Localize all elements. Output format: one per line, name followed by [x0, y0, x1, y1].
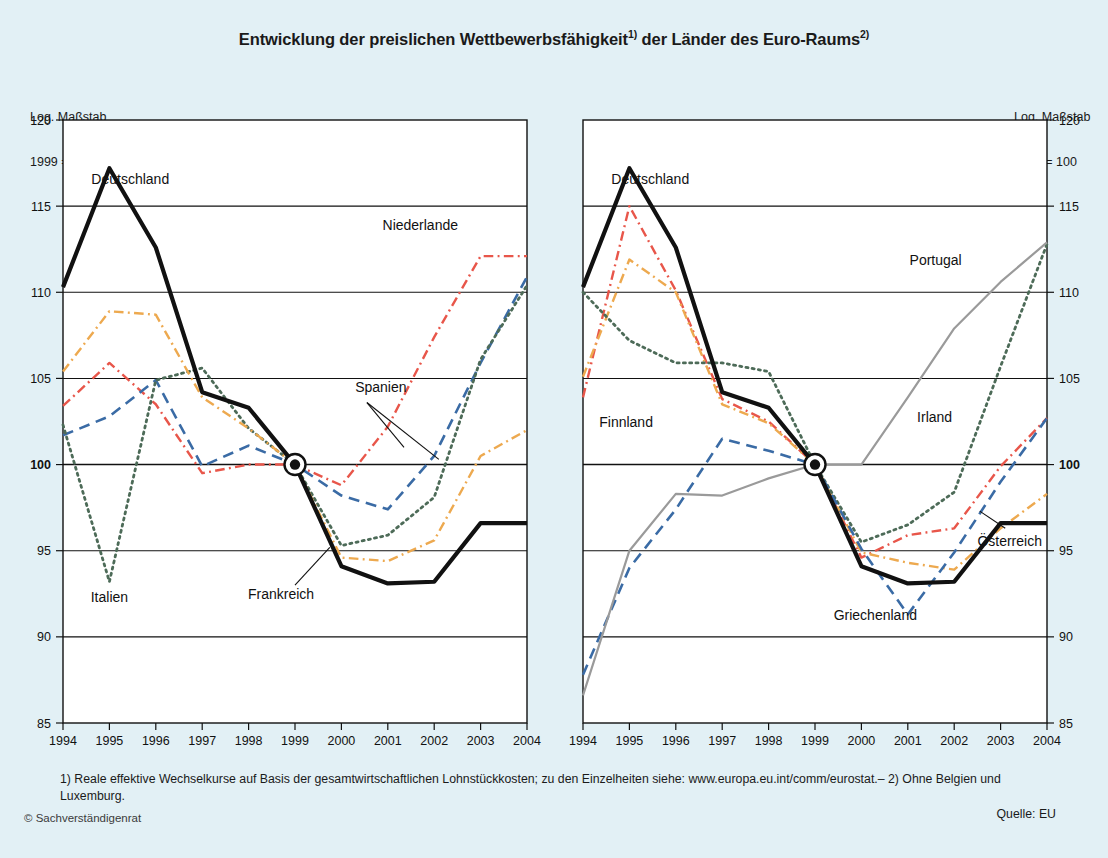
scale-note-left-line2: 1999 = 100 [30, 155, 106, 170]
xtick-label-2000: 2000 [847, 734, 875, 748]
source-label: Quelle: EU [997, 807, 1056, 821]
right-panel-plot-area [583, 120, 1047, 723]
ytick-label-100: 100 [1059, 458, 1080, 472]
xtick-label-2001: 2001 [374, 734, 402, 748]
series-line-italien [63, 285, 527, 581]
xtick-label-1994: 1994 [569, 734, 597, 748]
series-label-finnland: Finnland [599, 414, 653, 430]
title-text: Entwicklung der preislichen Wettbewerbsf… [239, 30, 628, 48]
series-line-finnland [583, 206, 1047, 557]
scale-note-left-line1: Log. Maßstab [30, 110, 106, 125]
left-panel-plot-area [63, 120, 527, 723]
footnote-text: 1) Reale effektive Wechselkurse auf Basi… [60, 771, 1055, 805]
series-label-frankreich: Frankreich [248, 586, 314, 602]
ytick-label-100: 100 [30, 458, 51, 472]
xtick-label-1994: 1994 [49, 734, 77, 748]
xtick-label-2001: 2001 [894, 734, 922, 748]
xtick-label-2004: 2004 [1033, 734, 1061, 748]
marker-1999-dot [810, 459, 820, 469]
marker-1999-dot [290, 459, 300, 469]
series-label-griechenland: Griechenland [834, 607, 917, 623]
label-leader-2 [295, 547, 330, 585]
scale-note-right-line2: 1999 = 100 [1014, 155, 1090, 170]
ytick-label-85: 85 [37, 717, 51, 731]
title-footnote-ref-1: 1) [628, 28, 637, 40]
page-title: Entwicklung der preislichen Wettbewerbsf… [0, 28, 1108, 49]
xtick-label-2002: 2002 [940, 734, 968, 748]
xtick-label-1999: 1999 [281, 734, 309, 748]
series-line-niederlande [63, 256, 527, 485]
xtick-label-2003: 2003 [467, 734, 495, 748]
ytick-label-90: 90 [37, 630, 51, 644]
chart-canvas: 8590951001051101151201994199519961997199… [0, 0, 1108, 858]
series-line-spanien [63, 277, 527, 510]
xtick-label-1999: 1999 [801, 734, 829, 748]
series-label-spanien: Spanien [355, 379, 406, 395]
xtick-label-1996: 1996 [142, 734, 170, 748]
label-leader-0 [980, 511, 1006, 528]
label-leader-1 [367, 403, 439, 460]
scale-note-left: Log. Maßstab 1999 = 100 [30, 80, 106, 200]
ytick-label-110: 110 [1059, 286, 1079, 300]
ytick-label-115: 115 [31, 200, 51, 214]
xtick-label-1996: 1996 [662, 734, 690, 748]
right-panel-frame [583, 120, 1047, 723]
figure-root: Entwicklung der preislichen Wettbewerbsf… [0, 0, 1108, 858]
series-line-österreich [583, 260, 1047, 570]
series-line-irland [583, 244, 1047, 542]
ytick-label-110: 110 [31, 286, 51, 300]
xtick-label-1998: 1998 [755, 734, 783, 748]
xtick-label-2000: 2000 [327, 734, 355, 748]
ytick-label-95: 95 [1059, 544, 1073, 558]
scale-note-right-line1: Log. Maßstab [1014, 110, 1090, 125]
series-line-frankreich [63, 311, 527, 561]
copyright-label: © Sachverständigenrat [24, 812, 141, 824]
series-label-italien: Italien [91, 589, 128, 605]
series-label-österreich: Österreich [977, 532, 1042, 549]
right-panel: 8590951001051101151201994199519961997199… [569, 114, 1080, 749]
ytick-label-95: 95 [37, 544, 51, 558]
xtick-label-1995: 1995 [95, 734, 123, 748]
xtick-label-1998: 1998 [235, 734, 263, 748]
xtick-label-2004: 2004 [513, 734, 541, 748]
ytick-label-105: 105 [30, 372, 51, 386]
ytick-label-85: 85 [1059, 717, 1073, 731]
series-line-deutschland [63, 168, 527, 583]
label-leader-0 [367, 403, 404, 448]
series-label-irland: Irland [917, 409, 952, 425]
title-footnote-ref-2: 2) [860, 28, 869, 40]
ytick-label-115: 115 [1059, 200, 1079, 214]
xtick-label-2002: 2002 [420, 734, 448, 748]
series-label-niederlande: Niederlande [383, 217, 459, 233]
xtick-label-1995: 1995 [615, 734, 643, 748]
ytick-label-105: 105 [1059, 372, 1080, 386]
xtick-label-2003: 2003 [987, 734, 1015, 748]
xtick-label-1997: 1997 [188, 734, 216, 748]
title-text-middle: der Länder des Euro-Raums [637, 30, 860, 48]
marker-1999-ring [285, 454, 306, 475]
marker-1999-ring [805, 454, 826, 475]
xtick-label-1997: 1997 [708, 734, 736, 748]
series-label-deutschland: Deutschland [611, 171, 689, 187]
series-line-deutschland [583, 168, 1047, 583]
scale-note-right: Log. Maßstab 1999 = 100 [1014, 80, 1090, 200]
left-panel: 8590951001051101151201994199519961997199… [30, 114, 541, 749]
ytick-label-90: 90 [1059, 630, 1073, 644]
series-line-griechenland [583, 418, 1047, 675]
series-line-portugal [583, 242, 1047, 695]
series-label-portugal: Portugal [910, 252, 962, 268]
left-panel-frame [63, 120, 527, 723]
